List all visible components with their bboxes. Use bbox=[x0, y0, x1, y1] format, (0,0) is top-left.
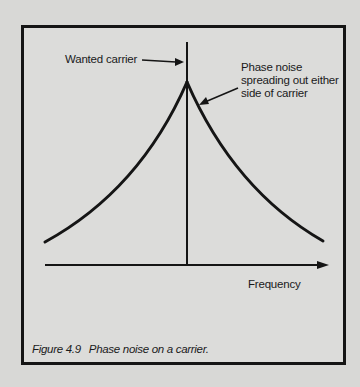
axis-arrowhead-icon bbox=[317, 261, 329, 269]
phase-noise-label-line2: spreading out either bbox=[241, 74, 339, 87]
pointer-arrowhead-icon bbox=[199, 97, 209, 105]
figure-caption-text: Phase noise on a carrier. bbox=[89, 343, 209, 355]
phase-noise-diagram bbox=[0, 0, 360, 387]
pointer-arrowhead-icon bbox=[175, 58, 184, 66]
wanted-carrier-pointer bbox=[142, 60, 176, 62]
figure-caption: Figure 4.9Phase noise on a carrier. bbox=[32, 343, 217, 355]
phase-noise-label-line3: side of carrier bbox=[241, 87, 308, 100]
wanted-carrier-label: Wanted carrier bbox=[65, 53, 137, 66]
phase-noise-label-line1: Phase noise bbox=[241, 61, 302, 74]
phase-noise-pointer bbox=[205, 88, 238, 102]
phase-noise-curve-left bbox=[45, 82, 187, 242]
figure-number: Figure 4.9 bbox=[32, 343, 81, 355]
phase-noise-curve-right bbox=[187, 82, 323, 241]
x-axis-label: Frequency bbox=[248, 278, 301, 291]
